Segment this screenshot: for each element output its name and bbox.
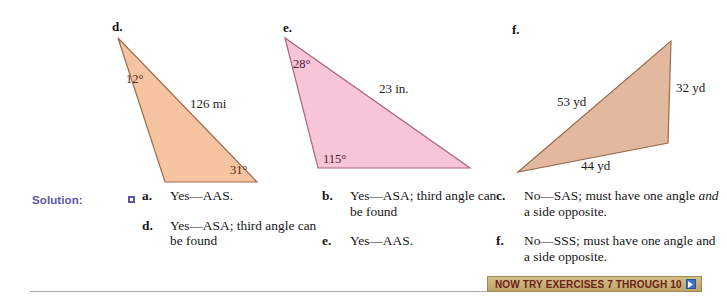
solution-label: Solution: <box>32 194 83 206</box>
solution-item-a-tag: a. <box>142 188 152 204</box>
triangle-e-shape <box>285 38 470 168</box>
triangle-f-shape <box>518 41 671 172</box>
solution-item-c-text-post: a side opposite. <box>524 204 607 219</box>
solution-item-c: c. No—SAS; must have one angle and a sid… <box>496 188 721 219</box>
triangle-d-angle-top: 12° <box>126 72 144 87</box>
solution-item-b-tag: b. <box>322 188 333 204</box>
solution-item-f-tag: f. <box>496 233 504 249</box>
solution-item-a-text: Yes—AAS. <box>170 188 233 203</box>
figure-letter-f: f. <box>512 22 520 38</box>
triangle-f-side-left-label: 53 yd <box>557 94 586 110</box>
triangle-d-side-label: 126 mi <box>190 96 226 112</box>
solution-panel: Solution: a. Yes—AAS. d. Yes—ASA; third … <box>0 188 727 278</box>
triangle-d-shape <box>118 38 257 182</box>
solution-item-a: a. Yes—AAS. <box>142 188 332 204</box>
play-arrow-icon[interactable] <box>686 279 696 289</box>
now-try-banner-text: NOW TRY EXERCISES 7 THROUGH 10 <box>495 279 682 290</box>
figures-panel: d. 12° 31° 126 mi e. 28° 115° 23 in. f. … <box>0 0 727 190</box>
solution-item-f: f. No—SSS; must have one angle and a sid… <box>496 233 721 264</box>
solution-item-f-text: No—SSS; must have one angle and a side o… <box>524 233 716 264</box>
solution-column-3: c. No—SAS; must have one angle and a sid… <box>496 188 721 264</box>
solution-item-b: b. Yes—ASA; third angle can be found <box>322 188 497 219</box>
solution-item-d-text: Yes—ASA; third angle can be found <box>170 218 316 249</box>
now-try-banner[interactable]: NOW TRY EXERCISES 7 THROUGH 10 <box>487 276 702 292</box>
square-bullet-icon <box>128 196 135 203</box>
solution-item-c-text-emphasis: and <box>698 188 718 203</box>
triangles-svg <box>0 0 727 190</box>
triangle-e-angle-bottom: 115° <box>323 152 346 167</box>
triangle-f-side-right-label: 32 yd <box>676 80 705 96</box>
triangle-e-side-label: 23 in. <box>379 81 409 97</box>
solution-item-d: d. Yes—ASA; third angle can be found <box>142 218 332 249</box>
solution-item-e-text: Yes—AAS. <box>350 233 413 248</box>
solution-item-e: e. Yes—AAS. <box>322 233 497 249</box>
triangle-d-angle-bottom: 31° <box>230 163 248 178</box>
solution-item-c-text: No—SAS; must have one angle and a side o… <box>524 188 719 219</box>
figure-letter-d: d. <box>112 19 122 35</box>
figure-letter-e: e. <box>283 20 292 36</box>
solution-item-b-text: Yes—ASA; third angle can be found <box>350 188 496 219</box>
triangle-f-side-bottom-label: 44 yd <box>581 158 610 174</box>
solution-item-e-tag: e. <box>322 233 331 249</box>
solution-item-d-tag: d. <box>142 218 153 234</box>
solution-column-2: b. Yes—ASA; third angle can be found e. … <box>322 188 497 249</box>
triangle-e-angle-top: 28° <box>293 57 311 72</box>
solution-item-c-text-pre: No—SAS; must have one angle <box>524 188 698 203</box>
solution-item-c-tag: c. <box>496 188 505 204</box>
solution-column-1: a. Yes—AAS. d. Yes—ASA; third angle can … <box>142 188 332 249</box>
